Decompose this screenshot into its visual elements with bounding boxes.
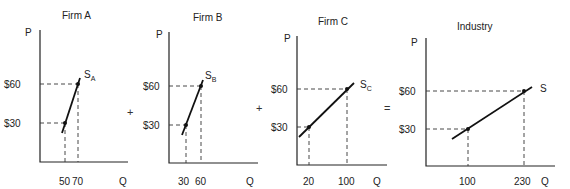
x-tick-label: 230 bbox=[514, 176, 531, 187]
supply-curve bbox=[299, 83, 354, 137]
curve-label: SA bbox=[84, 69, 96, 82]
x-axis-label: Q bbox=[246, 176, 254, 187]
y-tick-label: $60 bbox=[143, 81, 160, 92]
supply-summation-figure: Firm A P Q SA $60 $30 50 70 + Firm B P Q… bbox=[0, 0, 570, 189]
y-tick-label: $60 bbox=[271, 84, 288, 95]
data-point bbox=[199, 84, 203, 88]
x-tick-label: 50 bbox=[59, 176, 71, 187]
chart-firm-a: Firm A P Q SA $60 $30 50 70 bbox=[4, 10, 128, 187]
axes bbox=[297, 36, 387, 165]
axes bbox=[169, 32, 258, 163]
y-axis-label: P bbox=[25, 27, 32, 38]
y-tick-label: $60 bbox=[4, 79, 21, 90]
x-tick-label: 20 bbox=[303, 176, 315, 187]
chart-firm-c: Firm C P Q SC $60 $30 20 100 bbox=[271, 16, 387, 187]
equals-operator: = bbox=[384, 102, 390, 114]
y-tick-label: $30 bbox=[399, 124, 416, 135]
data-point bbox=[466, 127, 470, 131]
curve-label: SB bbox=[205, 70, 217, 83]
chart-industry: Industry P Q S $60 $30 100 230 bbox=[399, 21, 555, 187]
chart-title: Firm B bbox=[193, 12, 223, 23]
y-axis-label: P bbox=[411, 37, 418, 48]
chart-firm-b: Firm B P Q SB $60 $30 30 60 bbox=[143, 12, 258, 187]
plus-operator: + bbox=[256, 102, 262, 114]
data-point bbox=[184, 123, 188, 127]
data-point bbox=[522, 89, 526, 93]
x-tick-label: 70 bbox=[72, 176, 84, 187]
x-tick-label: 100 bbox=[338, 176, 355, 187]
curve-label: SC bbox=[360, 79, 372, 92]
data-point bbox=[63, 121, 67, 125]
y-axis-label: P bbox=[156, 29, 163, 40]
x-tick-label: 30 bbox=[178, 176, 190, 187]
chart-title: Firm C bbox=[318, 16, 348, 27]
y-axis-label: P bbox=[284, 33, 291, 44]
x-axis-label: Q bbox=[119, 176, 127, 187]
data-point bbox=[345, 87, 349, 91]
data-point bbox=[307, 125, 311, 129]
plus-operator: + bbox=[127, 106, 133, 118]
y-tick-label: $60 bbox=[399, 86, 416, 97]
x-axis-label: Q bbox=[373, 176, 381, 187]
chart-title: Industry bbox=[457, 21, 493, 32]
y-tick-label: $30 bbox=[271, 122, 288, 133]
data-point bbox=[76, 82, 80, 86]
axes bbox=[426, 38, 555, 166]
x-tick-label: 100 bbox=[459, 176, 476, 187]
curve-label: S bbox=[540, 83, 547, 94]
chart-title: Firm A bbox=[62, 10, 91, 21]
axes bbox=[40, 30, 128, 162]
x-tick-label: 60 bbox=[195, 176, 207, 187]
x-axis-label: Q bbox=[541, 176, 549, 187]
y-tick-label: $30 bbox=[143, 120, 160, 131]
y-tick-label: $30 bbox=[4, 118, 21, 129]
supply-curve bbox=[452, 87, 532, 139]
